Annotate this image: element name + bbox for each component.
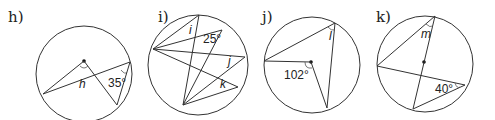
figure-h-circle <box>36 26 132 120</box>
figure-k-unknown: m <box>421 27 431 41</box>
figure-k-label: k) <box>376 8 391 26</box>
figure-h-unknown: h <box>79 77 86 91</box>
figure-i-unknown-j: j <box>226 54 231 68</box>
figure-k-angle: 40° <box>435 82 453 96</box>
circle-theorem-diagrams: h) h 35° i) i 25° j k j) <box>0 0 495 120</box>
figure-k: k) m 40° <box>376 8 473 112</box>
figure-i-label: i) <box>158 8 169 26</box>
figure-i-unknown-k: k <box>220 77 227 91</box>
figure-h-label: h) <box>8 8 24 26</box>
figure-h-angle: 35° <box>108 76 126 90</box>
figure-j: j) l 102° <box>260 8 360 113</box>
figure-h: h) h 35° <box>8 8 132 120</box>
figure-j-unknown: l <box>329 29 332 43</box>
figure-i-angle: 25° <box>203 32 221 46</box>
figure-j-label: j) <box>260 8 273 26</box>
figure-i: i) i 25° j k <box>148 8 248 115</box>
figure-j-angle: 102° <box>284 68 309 82</box>
figure-i-unknown-i: i <box>189 23 192 37</box>
